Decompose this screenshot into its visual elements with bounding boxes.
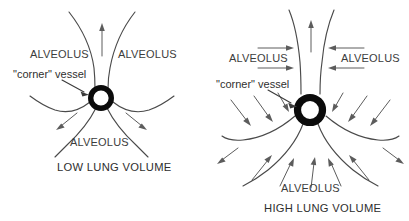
label-corner-vessel: "corner" vessel: [216, 78, 289, 90]
figure-background: [0, 0, 409, 221]
caption-high-lung-volume: HIGH LUNG VOLUME: [264, 202, 381, 214]
label-alveolus-top-right: ALVEOLUS: [341, 52, 400, 64]
label-alveolus-top-left: ALVEOLUS: [229, 52, 288, 64]
label-alveolus-top-left: ALVEOLUS: [30, 48, 89, 60]
label-alveolus-bottom: ALVEOLUS: [70, 136, 129, 148]
corner-vessel-figure: ALVEOLUS ALVEOLUS "corner" vessel ALVEOL…: [0, 0, 409, 221]
corner-vessel-ring: [298, 98, 323, 123]
caption-low-lung-volume: LOW LUNG VOLUME: [57, 161, 172, 173]
corner-vessel-ring: [91, 88, 112, 109]
label-alveolus-bottom: ALVEOLUS: [281, 182, 340, 194]
label-corner-vessel: "corner" vessel: [13, 68, 86, 80]
label-alveolus-top-right: ALVEOLUS: [118, 48, 177, 60]
figure-canvas: ALVEOLUS ALVEOLUS "corner" vessel ALVEOL…: [0, 0, 409, 221]
